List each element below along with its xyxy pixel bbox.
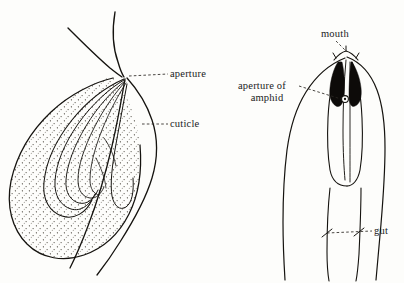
- body-wall-upper-centre: [113, 12, 124, 77]
- label-cuticle: cuticle: [170, 118, 199, 130]
- leader-mouth: [336, 41, 345, 50]
- amphid-pouch-black-right: [349, 62, 361, 106]
- amphid-aperture-pore-centre: [344, 98, 346, 100]
- leader-aperture: [129, 74, 168, 76]
- labial-papilla-right: [356, 53, 359, 58]
- label-aperture: aperture: [170, 68, 206, 80]
- figure-canvas: [0, 0, 404, 283]
- leader-gut: [327, 231, 372, 233]
- label-mouth: mouth: [321, 28, 349, 40]
- gut-tick-right: [354, 228, 364, 236]
- label-aperture-of-amphid-line2: amphid: [238, 92, 296, 104]
- label-gut: gut: [374, 225, 388, 237]
- right-panel-head-end-view: [283, 41, 385, 281]
- lower-body-right: [356, 188, 361, 281]
- mouth-apex-outline: [334, 51, 358, 60]
- left-panel-lateral-amphid-section: [0, 12, 168, 280]
- lower-body-left: [327, 188, 330, 281]
- labial-papilla-left: [333, 53, 336, 58]
- label-aperture-of-amphid-line1: aperture of: [238, 80, 286, 92]
